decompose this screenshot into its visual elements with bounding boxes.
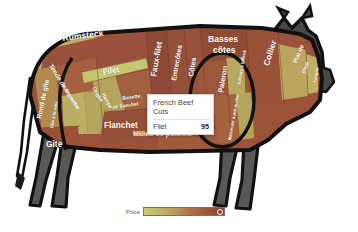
legend-value-marker[interactable] — [217, 209, 223, 215]
cut-regions — [20, 20, 340, 160]
tooltip: French Beef Cuts Filet 95 — [147, 94, 214, 135]
tooltip-title: French Beef Cuts — [153, 98, 209, 120]
price-legend: Price 95 — [126, 207, 225, 216]
tooltip-row: Filet 95 — [153, 120, 209, 132]
beef-cuts-chart: Rumsteck Rond de gîte Tende de tranche P… — [0, 0, 358, 232]
legend-max-label: 95 — [218, 199, 225, 206]
tooltip-row-label: Filet — [153, 122, 167, 131]
legend-gradient-bar[interactable]: 95 — [143, 207, 225, 216]
legend-title: Price — [126, 208, 140, 215]
tooltip-row-value: 95 — [201, 122, 209, 131]
region-plat-de-joue — [278, 44, 308, 100]
